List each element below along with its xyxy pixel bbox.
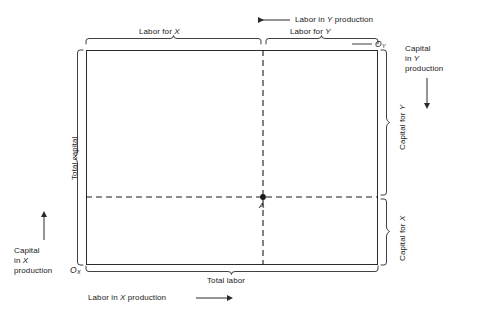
labor-in-x-production-label: Labor in X production	[88, 293, 166, 303]
capital-for-x-label: Capital for X	[398, 216, 408, 261]
point-a-label: A	[259, 201, 264, 211]
total-capital-label: Total capital	[70, 136, 80, 180]
capital-in-x-production-label: Capitalin Xproduction	[14, 246, 76, 276]
labor-in-y-production-label: Labor in Y production	[295, 15, 373, 25]
total-labor-label: Total labor	[207, 276, 245, 286]
allocation-point-a	[260, 194, 266, 200]
capital-for-y-label: Capital for Y	[398, 105, 408, 150]
figure-canvas: Labor in Y production Labor for X Labor …	[0, 0, 477, 315]
labor-for-y-label: Labor for Y	[290, 27, 331, 37]
capital-in-y-production-label: Capitalin Yproduction	[405, 44, 475, 74]
brace-capital-for-x	[381, 199, 390, 265]
labor-for-x-label: Labor for X	[139, 27, 180, 37]
origin-y-label: OY	[375, 39, 386, 51]
brace-total-labor	[86, 266, 378, 275]
brace-capital-for-y	[381, 50, 390, 195]
